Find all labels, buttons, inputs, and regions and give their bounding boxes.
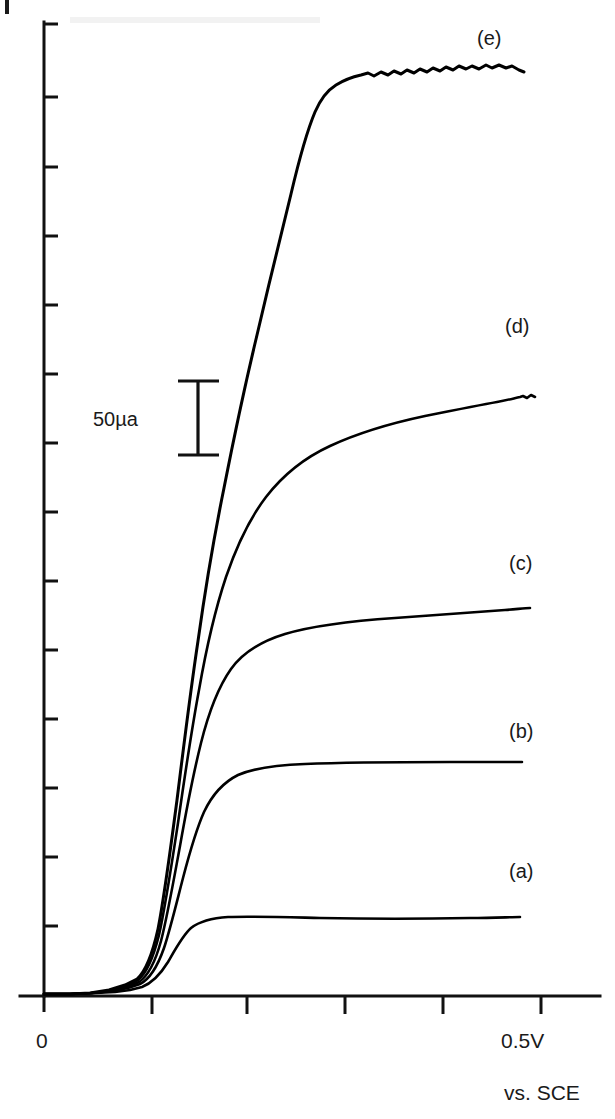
chart-canvas: 50µa (e) (d) (c) (b) (a) 0 0.5V vs. SCE — [0, 0, 615, 1119]
curve-label-b: (b) — [509, 720, 533, 742]
curve-label-c: (c) — [509, 552, 532, 574]
x-axis-start-label: 0 — [36, 1029, 48, 1052]
curve-label-a: (a) — [509, 860, 533, 882]
scale-bar-label: 50µa — [93, 408, 139, 430]
curve-label-d: (d) — [505, 315, 529, 337]
curve-label-e: (e) — [477, 27, 501, 49]
x-axis-end-label: 0.5V — [501, 1029, 544, 1052]
x-axis-reference-label: vs. SCE — [504, 1081, 580, 1104]
scan-mark — [5, 0, 9, 14]
voltammogram-figure: 50µa (e) (d) (c) (b) (a) 0 0.5V vs. SCE — [0, 0, 615, 1119]
scan-artifact — [70, 17, 320, 23]
